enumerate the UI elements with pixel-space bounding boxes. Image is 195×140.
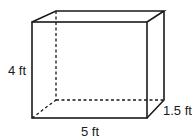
top-face-edges (32, 11, 164, 22)
width-label: 5 ft (81, 124, 99, 139)
depth-label: 1.5 ft (163, 103, 192, 118)
height-label: 4 ft (8, 63, 26, 78)
front-face (32, 22, 147, 118)
rectangular-prism-diagram: 4 ft 5 ft 1.5 ft (0, 0, 195, 140)
hidden-bottom-left-depth-edge (32, 100, 56, 118)
hidden-edges (32, 11, 164, 118)
right-face-edges (147, 11, 164, 118)
